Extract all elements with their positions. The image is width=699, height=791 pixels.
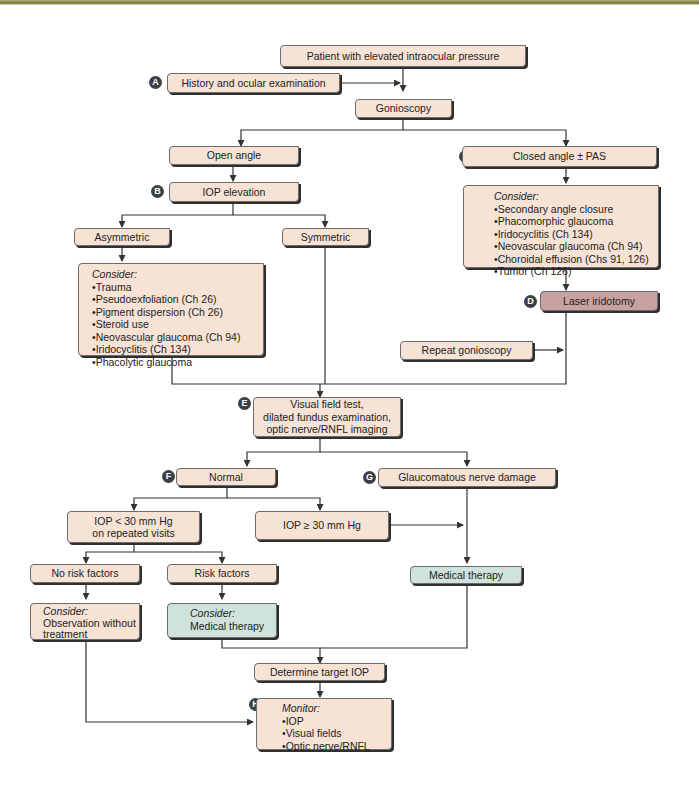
list-item: IOP: [282, 715, 391, 728]
list-item: Secondary angle closure: [494, 203, 658, 216]
node-symmetric-label: Symmetric: [301, 231, 351, 244]
node-asymmetric: Asymmetric: [74, 228, 170, 246]
monitor-heading: Monitor:: [282, 702, 391, 715]
iop-lt-30-line-2: on repeated visits: [92, 527, 174, 540]
node-monitor: Monitor: IOP Visual fields Optic nerve/R…: [256, 698, 392, 750]
node-iop-ge-30-label: IOP ≥ 30 mm Hg: [283, 519, 361, 532]
node-no-risk-label: No risk factors: [51, 567, 118, 580]
list-item: Visual fields: [282, 727, 391, 740]
node-history: History and ocular examination: [167, 73, 340, 93]
node-laser-label: Laser iridotomy: [563, 295, 635, 308]
node-start-label: Patient with elevated intraocular pressu…: [307, 50, 500, 63]
node-medical-therapy: Medical therapy: [410, 566, 522, 584]
node-closed-angle: Closed angle ± PAS: [462, 146, 657, 167]
list-item: Neovascular glaucoma (Ch 94): [92, 331, 263, 344]
risk-consider-line-1: Medical therapy: [190, 620, 276, 633]
badge-e: E: [238, 397, 251, 410]
badge-g: G: [363, 471, 376, 484]
list-item: Neovascular glaucoma (Ch 94): [494, 240, 658, 253]
node-target-iop: Determine target IOP: [254, 663, 385, 681]
visual-field-line-2: dilated fundus examination,: [263, 411, 391, 424]
node-open-angle-label: Open angle: [207, 149, 261, 162]
badge-d: D: [524, 295, 537, 308]
node-laser-iridotomy: Laser iridotomy: [540, 291, 658, 311]
node-gonioscopy: Gonioscopy: [355, 99, 452, 118]
badge-f: F: [162, 470, 175, 483]
node-iop-ge-30: IOP ≥ 30 mm Hg: [255, 511, 389, 540]
node-consider-medical-therapy: Consider: Medical therapy: [167, 603, 277, 638]
node-iop-elevation: IOP elevation: [169, 182, 299, 202]
list-item: Phacomorphic glaucoma: [494, 215, 658, 228]
node-iop-elevation-label: IOP elevation: [203, 186, 266, 199]
list-item: Trauma: [92, 281, 263, 294]
observe-heading: Consider:: [43, 606, 139, 618]
list-item: Choroidal effusion (Chs 91, 126): [494, 253, 658, 266]
observe-line-2: treatment: [43, 629, 139, 641]
node-repeat-gonioscopy: Repeat gonioscopy: [400, 341, 533, 360]
node-iop-lt-30: IOP < 30 mm Hg on repeated visits: [67, 511, 200, 543]
node-start: Patient with elevated intraocular pressu…: [280, 45, 526, 67]
node-asymmetric-consider: Consider: Trauma Pseudoexfoliation (Ch 2…: [78, 263, 264, 356]
asym-consider-list: Trauma Pseudoexfoliation (Ch 26) Pigment…: [92, 281, 263, 369]
list-item: Iridocyclitis (Ch 134): [494, 228, 658, 241]
node-visual-field: Visual field test, dilated fundus examin…: [253, 397, 401, 437]
closed-consider-list: Secondary angle closure Phacomorphic gla…: [494, 203, 658, 278]
node-closed-angle-label: Closed angle ± PAS: [513, 150, 606, 163]
node-observation: Consider: Observation without treatment: [30, 603, 140, 640]
node-asymmetric-label: Asymmetric: [95, 231, 150, 244]
visual-field-line-1: Visual field test,: [290, 398, 363, 411]
node-repeat-gonioscopy-label: Repeat gonioscopy: [422, 344, 512, 357]
node-history-label: History and ocular examination: [181, 77, 325, 90]
list-item: Steroid use: [92, 318, 263, 331]
visual-field-line-3: optic nerve/RNFL imaging: [267, 423, 388, 436]
node-risk-factors: Risk factors: [167, 564, 277, 583]
node-medical-therapy-label: Medical therapy: [429, 569, 503, 582]
list-item: Iridocyclitis (Ch 134): [92, 343, 263, 356]
node-normal: Normal: [176, 468, 276, 486]
node-open-angle: Open angle: [169, 146, 299, 165]
node-glaucomatous-label: Glaucomatous nerve damage: [398, 471, 536, 484]
badge-a: A: [149, 76, 162, 89]
node-glaucomatous-damage: Glaucomatous nerve damage: [378, 468, 556, 487]
list-item: Pseudoexfoliation (Ch 26): [92, 293, 263, 306]
node-closed-consider: Consider: Secondary angle closure Phacom…: [463, 185, 659, 268]
node-target-iop-label: Determine target IOP: [270, 666, 369, 679]
node-symmetric: Symmetric: [282, 228, 369, 246]
list-item: Pigment dispersion (Ch 26): [92, 306, 263, 319]
risk-consider-heading: Consider:: [190, 607, 276, 620]
monitor-list: IOP Visual fields Optic nerve/RNFL: [282, 715, 391, 753]
list-item: Phacolytic glaucoma: [92, 356, 263, 369]
closed-consider-heading: Consider:: [494, 190, 658, 203]
badge-b: B: [151, 185, 164, 198]
node-risk-label: Risk factors: [195, 567, 250, 580]
node-gonioscopy-label: Gonioscopy: [376, 102, 431, 115]
node-no-risk-factors: No risk factors: [30, 564, 140, 583]
list-item: Optic nerve/RNFL: [282, 740, 391, 753]
node-normal-label: Normal: [209, 471, 243, 484]
list-item: Tumor (Ch 126): [494, 265, 658, 278]
asym-consider-heading: Consider:: [92, 268, 263, 281]
iop-lt-30-line-1: IOP < 30 mm Hg: [94, 515, 172, 528]
